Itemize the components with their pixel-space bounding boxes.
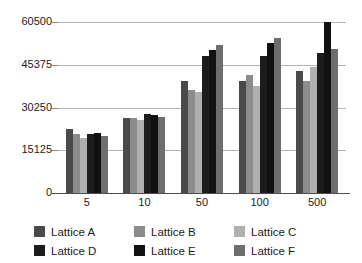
legend-swatch-icon: [134, 245, 145, 256]
y-axis-tick-label: 45375: [21, 59, 52, 70]
bar: [202, 56, 209, 193]
bar: [324, 22, 331, 193]
legend-item-lattice-b[interactable]: Lattice B: [134, 226, 234, 238]
x-axis-baseline: [52, 193, 350, 194]
bar: [188, 90, 195, 193]
legend-item-lattice-f[interactable]: Lattice F: [234, 245, 334, 257]
x-axis-tick-labels: 51050100500: [58, 196, 346, 208]
bar: [209, 50, 216, 193]
bar: [216, 45, 223, 193]
bar: [267, 43, 274, 193]
bar-groups: [58, 22, 346, 193]
bar: [123, 118, 130, 193]
bar: [181, 81, 188, 193]
legend-swatch-icon: [134, 226, 145, 237]
bar: [253, 86, 260, 193]
bar-group-50: [173, 22, 231, 193]
legend-item-lattice-e[interactable]: Lattice E: [134, 245, 234, 257]
bar-group-100: [231, 22, 289, 193]
bar: [101, 136, 108, 193]
bar: [137, 120, 144, 193]
legend-swatch-icon: [234, 226, 245, 237]
bar: [130, 118, 137, 193]
bar: [151, 115, 158, 193]
x-axis-tick-label: 500: [288, 196, 346, 208]
chart-legend: Lattice ALattice BLattice CLattice DLatt…: [34, 222, 334, 260]
x-axis-tick-label: 50: [173, 196, 231, 208]
bar: [144, 114, 151, 193]
bar: [274, 38, 281, 193]
bar: [296, 71, 303, 193]
legend-item-label: Lattice C: [251, 226, 296, 238]
bar: [303, 81, 310, 193]
bar: [331, 49, 338, 193]
bar-group-5: [58, 22, 116, 193]
bar: [239, 81, 246, 193]
legend-item-label: Lattice A: [51, 226, 95, 238]
legend-item-lattice-d[interactable]: Lattice D: [34, 245, 134, 257]
x-axis-tick-label: 100: [231, 196, 289, 208]
y-axis-tick-label: 15125: [21, 144, 52, 155]
legend-item-label: Lattice F: [251, 245, 295, 257]
bar: [246, 75, 253, 193]
bar: [260, 56, 267, 193]
bar: [158, 117, 165, 193]
bar: [73, 134, 80, 193]
bar-group-10: [116, 22, 174, 193]
legend-item-lattice-c[interactable]: Lattice C: [234, 226, 334, 238]
y-axis-tick-label: 60500: [21, 16, 52, 27]
x-axis-tick-label: 5: [58, 196, 116, 208]
bar: [317, 53, 324, 193]
bar: [80, 138, 87, 193]
y-axis-tick-label: 30250: [21, 102, 52, 113]
bar: [310, 67, 317, 193]
legend-swatch-icon: [34, 226, 45, 237]
bar: [195, 92, 202, 193]
legend-item-label: Lattice B: [151, 226, 196, 238]
legend-swatch-icon: [234, 245, 245, 256]
legend-item-label: Lattice D: [51, 245, 96, 257]
legend-item-label: Lattice E: [151, 245, 196, 257]
legend-item-lattice-a[interactable]: Lattice A: [34, 226, 134, 238]
bar-group-500: [288, 22, 346, 193]
legend-swatch-icon: [34, 245, 45, 256]
bar: [87, 134, 94, 193]
bar-chart: 015125302504537560500 51050100500 Lattic…: [0, 0, 362, 263]
bar: [94, 133, 101, 193]
x-axis-tick-label: 10: [116, 196, 174, 208]
bar: [66, 129, 73, 193]
